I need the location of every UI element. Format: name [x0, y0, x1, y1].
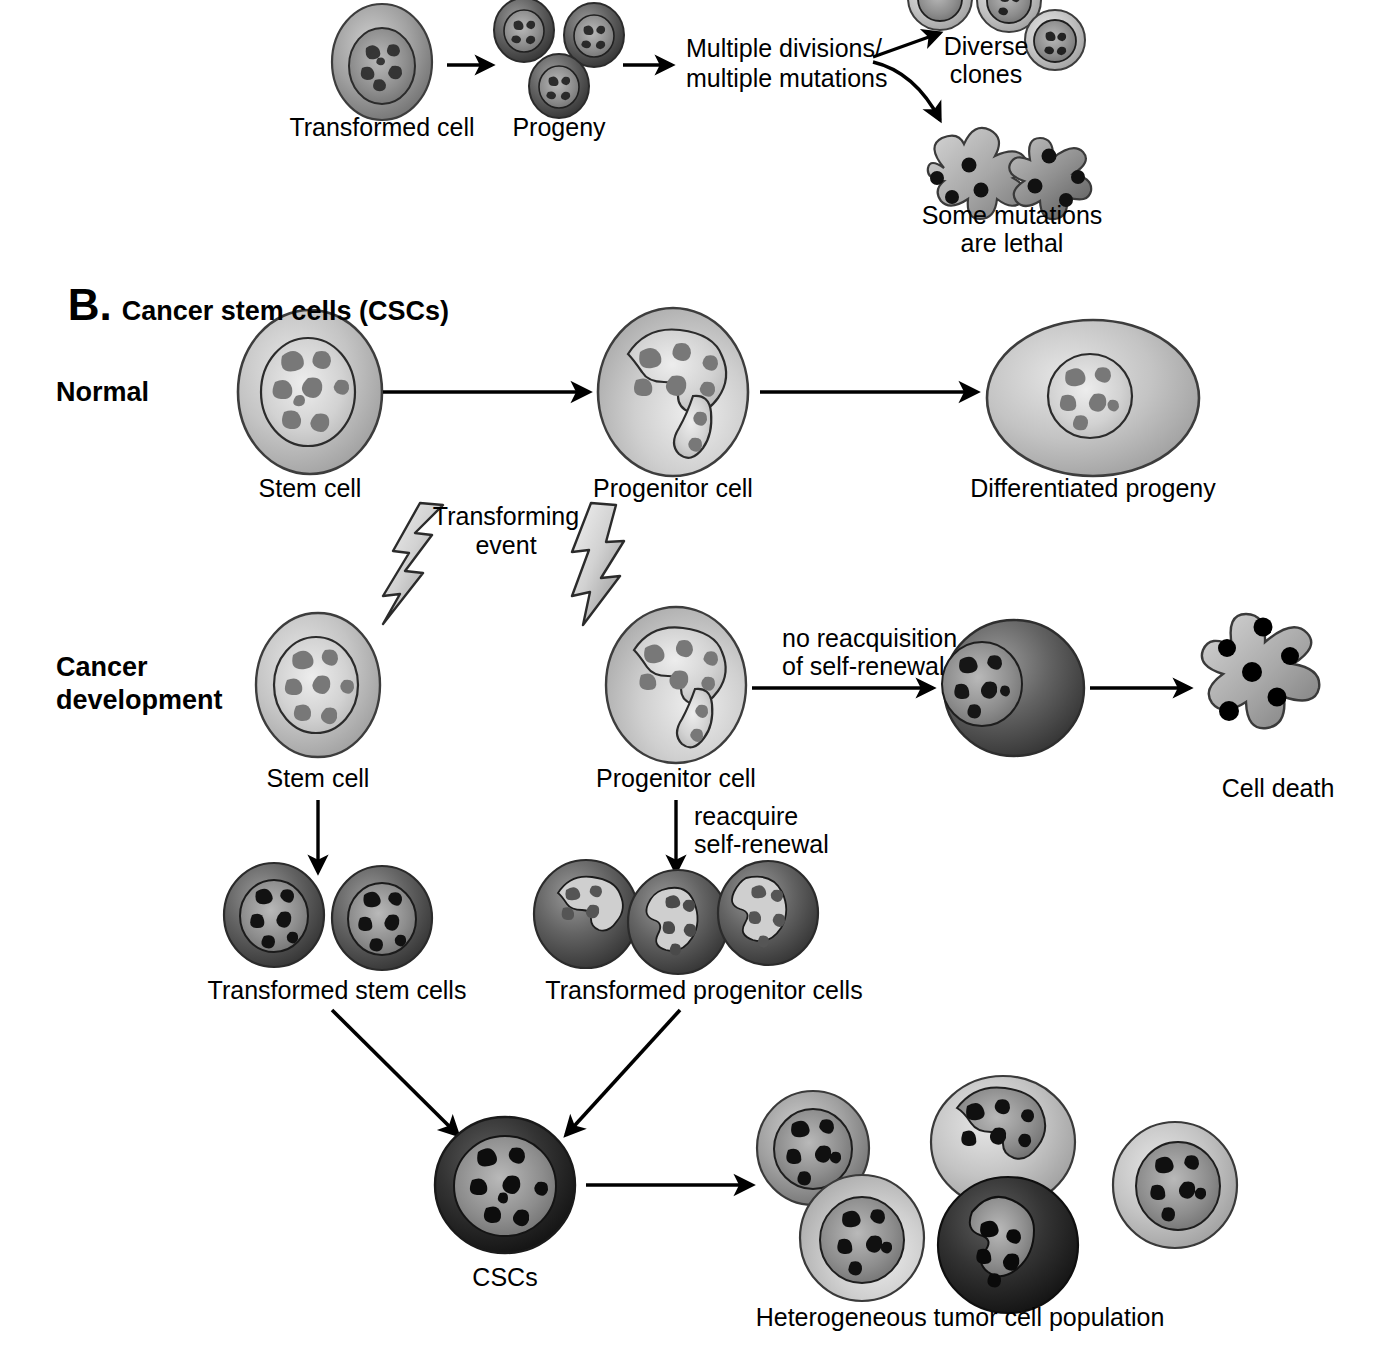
- label-no-reacquisition-line2: of self-renewal: [782, 651, 945, 681]
- cell-cscs: [435, 1117, 575, 1253]
- arrow-transformed-progenitor-to-cscs: [566, 1010, 680, 1135]
- label-cell-death: Cell death: [1222, 773, 1335, 803]
- figure-canvas: Transformed cell Progeny Multiple divisi…: [0, 0, 1395, 1350]
- label-differentiated-progeny: Differentiated progeny: [970, 473, 1216, 503]
- het-cell-4: [800, 1175, 924, 1301]
- cell-group-transformed-progenitor: [534, 860, 818, 974]
- label-stem-cell-normal: Stem cell: [259, 473, 362, 503]
- panel-b-letter: B.: [68, 280, 112, 329]
- panel-b-title: Cancer stem cells (CSCs): [122, 296, 449, 326]
- het-cell-3: [1113, 1122, 1237, 1248]
- cell-progenitor-normal: [598, 308, 748, 476]
- label-heterogeneous-population: Heterogeneous tumor cell population: [756, 1302, 1165, 1332]
- cell-transformed: [332, 4, 432, 120]
- arrow-transformed-stem-to-cscs: [332, 1010, 458, 1135]
- cell-stem-cancer: [256, 613, 380, 757]
- label-diverse-clones-line2: clones: [950, 59, 1022, 89]
- label-multiple-divisions-line1: Multiple divisions/: [686, 33, 882, 63]
- cell-group-transformed-stem: [224, 863, 432, 970]
- label-cscs: CSCs: [472, 1262, 537, 1292]
- lightning-bolt-right: [572, 503, 624, 625]
- cell-differentiated-progeny: [987, 320, 1199, 476]
- cell-group-heterogeneous: [757, 1076, 1237, 1313]
- arrow-branch-to-diverse: [873, 33, 940, 57]
- row-label-normal: Normal: [56, 376, 149, 409]
- label-progenitor-cell-cancer: Progenitor cell: [596, 763, 756, 793]
- het-cell-5: [938, 1177, 1078, 1313]
- cell-progenitor-cancer: [606, 607, 746, 763]
- label-multiple-divisions-line2: multiple mutations: [686, 63, 887, 93]
- label-lethal-line1: Some mutations: [922, 200, 1103, 230]
- panel-b-heading: B.Cancer stem cells (CSCs): [50, 262, 449, 348]
- label-reacquire-line2: self-renewal: [694, 829, 829, 859]
- label-reacquire-line1: reacquire: [694, 801, 798, 831]
- label-diverse-clones-line1: Diverse: [944, 31, 1029, 61]
- row-label-cancer-line1: Cancer: [56, 651, 148, 684]
- label-transformed-progenitor-cells: Transformed progenitor cells: [545, 975, 862, 1005]
- label-progenitor-cell-normal: Progenitor cell: [593, 473, 753, 503]
- cell-group-progeny: [494, 0, 624, 118]
- label-transformed-cell: Transformed cell: [289, 112, 474, 142]
- diagram-graphics: [0, 0, 1395, 1350]
- cell-death: [1202, 614, 1319, 728]
- cell-no-reacquisition: [942, 620, 1084, 756]
- label-transforming-event-line2: event: [475, 530, 536, 560]
- label-no-reacquisition-line1: no reacquisition: [782, 623, 957, 653]
- row-label-cancer-line2: development: [56, 684, 223, 717]
- label-stem-cell-cancer: Stem cell: [267, 763, 370, 793]
- label-lethal-line2: are lethal: [961, 228, 1064, 258]
- label-transformed-stem-cells: Transformed stem cells: [208, 975, 467, 1005]
- label-transforming-event-line1: Transforming: [433, 501, 579, 531]
- label-progeny: Progeny: [512, 112, 605, 142]
